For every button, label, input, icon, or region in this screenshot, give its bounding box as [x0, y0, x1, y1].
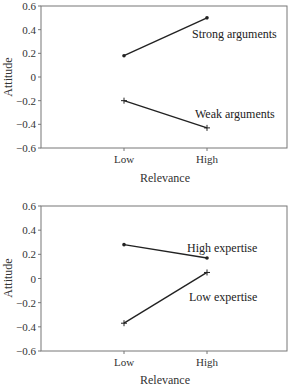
y-axis-ticks: 0.60.40.20−0.2−0.4−0.6	[16, 200, 41, 357]
x-tick-label: Low	[114, 356, 134, 368]
x-tick-label: High	[196, 153, 219, 165]
x-tick-label: Low	[114, 153, 134, 165]
plus-marker-icon	[121, 98, 127, 104]
plus-marker-icon	[204, 125, 210, 131]
y-tick-label: −0.6	[16, 345, 36, 357]
y-tick-label: 0	[31, 71, 37, 83]
y-tick-label: 0.6	[22, 200, 36, 212]
chart-top: 0.60.40.20−0.2−0.4−0.6 LowHigh Attitude …	[1, 0, 287, 185]
y-tick-label: 0.2	[22, 248, 36, 260]
y-tick-label: 0.6	[22, 0, 36, 12]
series-label-low-expertise: Low expertise	[189, 290, 257, 304]
y-tick-label: 0	[31, 273, 37, 285]
y-axis-label: Attitude	[1, 258, 15, 297]
x-axis-ticks: LowHigh	[114, 351, 219, 368]
y-axis-label: Attitude	[1, 57, 15, 96]
dot-marker-icon	[205, 256, 209, 260]
series-label-weak-arguments: Weak arguments	[195, 107, 275, 121]
series-label-high-expertise: High expertise	[187, 241, 257, 255]
y-tick-label: −0.6	[16, 142, 36, 154]
x-axis-label: Relevance	[140, 171, 190, 185]
charts-figure: 0.60.40.20−0.2−0.4−0.6 LowHigh Attitude …	[0, 0, 290, 387]
dot-marker-icon	[205, 16, 209, 20]
y-tick-label: 0.4	[22, 224, 36, 236]
y-tick-label: −0.2	[16, 297, 36, 309]
y-tick-label: −0.2	[16, 95, 36, 107]
x-axis-ticks: LowHigh	[114, 148, 219, 165]
y-tick-label: 0.2	[22, 47, 36, 59]
series-lines	[121, 243, 210, 326]
dot-marker-icon	[122, 243, 126, 247]
x-axis-label: Relevance	[140, 373, 190, 387]
y-tick-label: −0.4	[16, 118, 36, 130]
x-tick-label: High	[196, 356, 219, 368]
y-axis-ticks: 0.60.40.20−0.2−0.4−0.6	[16, 0, 41, 154]
dot-marker-icon	[122, 54, 126, 58]
series-label-strong-arguments: Strong arguments	[192, 27, 277, 41]
y-tick-label: −0.4	[16, 321, 36, 333]
chart-bottom: 0.60.40.20−0.2−0.4−0.6 LowHigh Attitude …	[1, 200, 287, 387]
plot-frame	[41, 206, 287, 351]
y-tick-label: 0.4	[22, 24, 36, 36]
